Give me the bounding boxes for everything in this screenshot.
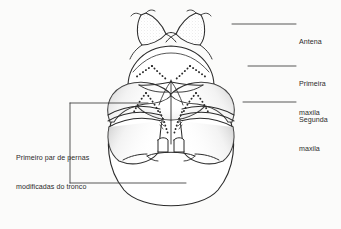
drawing-group xyxy=(70,10,296,206)
label-segunda-maxila: Segunda maxila xyxy=(299,97,328,174)
label-segunda-maxila-line-1: Segunda xyxy=(299,116,328,126)
label-primeiro-par-pernas-line-1: Primeiro par de pernas xyxy=(16,154,89,164)
label-primeira-maxila-line-1: Primeira xyxy=(299,80,326,90)
figure-page: Antena Primeira maxila Segunda maxila Pr… xyxy=(0,0,341,229)
label-antena-line-1: Antena xyxy=(299,38,322,48)
label-primeiro-par-pernas-line-2: modificadas do tronco xyxy=(16,183,89,193)
label-segunda-maxila-line-2: maxila xyxy=(299,145,328,155)
label-antena: Antena xyxy=(299,19,322,67)
antena-ponte xyxy=(166,33,176,35)
label-primeiro-par-pernas: Primeiro par de pernas modificadas do tr… xyxy=(16,135,89,212)
